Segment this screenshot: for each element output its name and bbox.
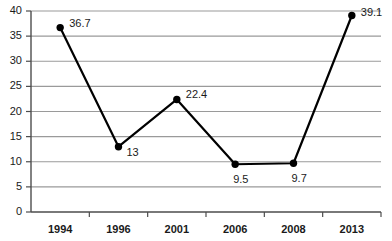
y-axis-tick-label: 20 — [0, 106, 22, 117]
y-axis-tick-label: 35 — [0, 30, 22, 41]
data-point-marker — [173, 96, 180, 103]
data-point-marker — [56, 24, 63, 31]
data-point-label: 36.7 — [69, 18, 90, 29]
data-point-label: 9.7 — [292, 173, 307, 184]
x-axis-tick-label: 2008 — [264, 224, 322, 235]
data-point-label: 9.5 — [233, 174, 248, 185]
y-axis-tick-label: 40 — [0, 5, 22, 16]
data-point-marker — [231, 161, 238, 168]
x-axis-tick-label: 2013 — [323, 224, 381, 235]
data-point-marker — [290, 160, 297, 167]
data-point-label: 39.1 — [361, 7, 382, 18]
x-axis-tick-label: 2006 — [206, 224, 264, 235]
data-point-label: 13 — [127, 147, 139, 158]
line-chart: 0510152025303540 19941996200120062008201… — [0, 0, 392, 241]
x-axis-tick-label: 2001 — [148, 224, 206, 235]
y-axis-tick-label: 15 — [0, 131, 22, 142]
y-axis-ticks — [26, 11, 31, 212]
y-axis-tick-label: 0 — [0, 206, 22, 217]
y-axis-tick-label: 5 — [0, 181, 22, 192]
y-axis-tick-label: 25 — [0, 80, 22, 91]
chart-plot-area — [0, 0, 392, 241]
x-axis-tick-label: 1994 — [31, 224, 89, 235]
x-axis-tick-label: 1996 — [89, 224, 147, 235]
data-point-marker — [348, 12, 355, 19]
y-axis-tick-label: 10 — [0, 156, 22, 167]
data-point-marker — [115, 143, 122, 150]
y-axis-tick-label: 30 — [0, 55, 22, 66]
data-point-label: 22.4 — [186, 89, 207, 100]
x-axis-ticks — [89, 212, 381, 217]
